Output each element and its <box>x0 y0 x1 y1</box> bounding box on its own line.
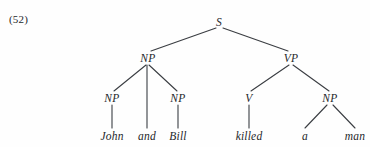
edge-group <box>112 28 355 128</box>
syntax-tree-figure: (52) SNPVPNPNPVNP JohnandBillkilledaman <box>0 0 370 147</box>
tree-node-s: S <box>216 16 222 28</box>
tree-edge <box>305 105 327 128</box>
tree-edge <box>251 65 289 91</box>
tree-node-vp: VP <box>284 52 299 64</box>
tree-node-np2: NP <box>104 92 119 104</box>
tree-edge <box>293 65 329 91</box>
tree-edge <box>151 28 216 51</box>
tree-terminal-bill: Bill <box>169 130 186 142</box>
tree-node-np1: NP <box>140 52 155 64</box>
tree-edges-canvas <box>0 0 370 147</box>
tree-edge <box>114 65 146 91</box>
tree-edge <box>333 105 355 128</box>
tree-terminal-and: and <box>138 130 156 142</box>
tree-node-np4: NP <box>322 92 337 104</box>
tree-terminal-man: man <box>345 130 365 142</box>
tree-terminal-john: John <box>100 130 123 142</box>
tree-node-np3: NP <box>170 92 185 104</box>
tree-terminal-a: a <box>302 130 308 142</box>
tree-node-v: V <box>245 92 252 104</box>
tree-edge <box>149 65 177 91</box>
tree-edge <box>223 28 288 51</box>
tree-terminal-killed: killed <box>236 130 263 142</box>
